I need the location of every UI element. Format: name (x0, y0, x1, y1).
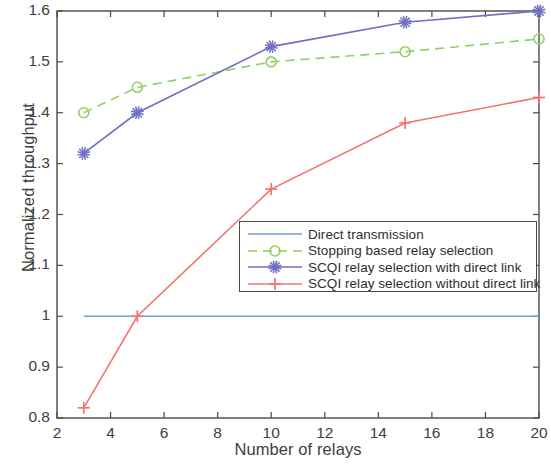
legend-item-label: Direct transmission (308, 227, 424, 242)
x-tick-label: 10 (251, 424, 291, 442)
legend-sample-swatch (246, 276, 304, 292)
y-tick-label: 1.2 (4, 205, 50, 223)
y-tick-label: 1.6 (4, 1, 50, 19)
x-tick-label: 6 (144, 424, 184, 442)
legend-item: SCQI relay selection without direct link (246, 276, 536, 293)
series-2 (78, 5, 546, 160)
axes-frame (57, 11, 539, 418)
legend-sample-swatch (246, 226, 304, 242)
x-tick-label: 16 (412, 424, 452, 442)
y-tick-label: 0.9 (4, 357, 50, 375)
y-tick-label: 1.4 (4, 103, 50, 121)
x-tick-label: 20 (519, 424, 551, 442)
legend-rows: Direct transmissionStopping based relay … (240, 222, 536, 292)
legend-sample-swatch (246, 243, 304, 259)
y-tick-label: 1.5 (4, 52, 50, 70)
legend-item: Direct transmission (246, 226, 536, 243)
legend-sample-swatch (246, 259, 304, 275)
x-tick-label: 12 (305, 424, 345, 442)
chart-figure: Normalized throughput Number of relays 0… (0, 0, 551, 466)
x-axis-label: Number of relays (57, 440, 539, 459)
legend-item-label: Stopping based relay selection (308, 243, 493, 258)
x-tick-label: 2 (37, 424, 77, 442)
legend-item-label: SCQI relay selection with direct link (308, 260, 521, 275)
legend-item-label: SCQI relay selection without direct link (308, 276, 540, 291)
x-tick-label: 8 (198, 424, 238, 442)
series-1 (79, 34, 544, 118)
x-tick-label: 14 (358, 424, 398, 442)
y-tick-label: 1 (4, 306, 50, 324)
chart-legend: Direct transmissionStopping based relay … (239, 221, 537, 292)
y-tick-label: 1.3 (4, 154, 50, 172)
y-tick-label: 1.1 (4, 255, 50, 273)
x-tick-label: 18 (465, 424, 505, 442)
legend-item: SCQI relay selection with direct link (246, 259, 536, 276)
x-tick-label: 4 (91, 424, 131, 442)
legend-item: Stopping based relay selection (246, 243, 536, 260)
